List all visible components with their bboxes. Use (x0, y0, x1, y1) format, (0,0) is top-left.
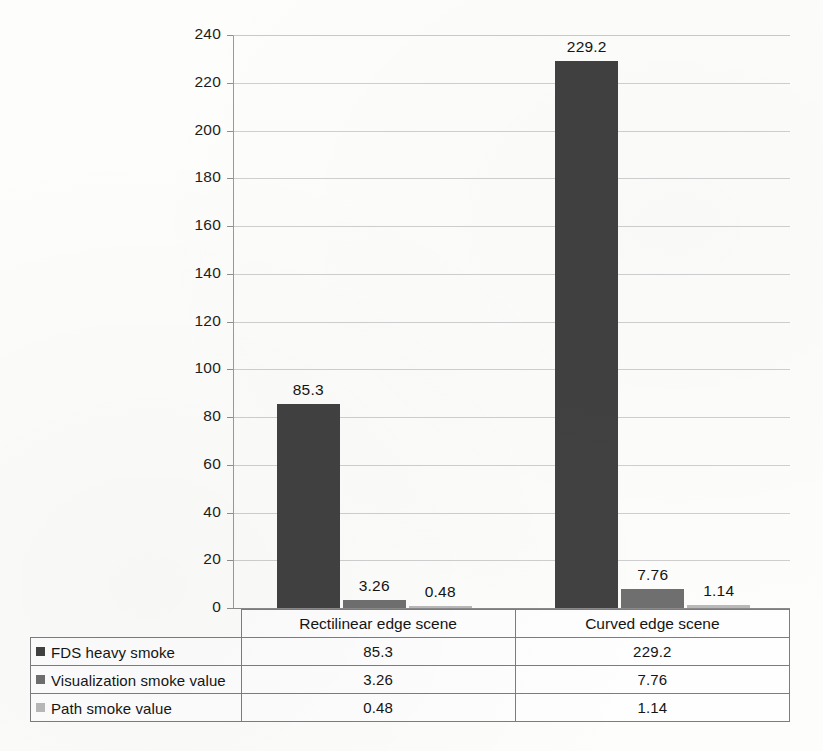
legend-label-2: Path smoke value (51, 700, 172, 717)
data-label-0-0: 85.3 (269, 381, 348, 399)
series-0-swatch-icon (36, 647, 45, 656)
table-row: Path smoke value0.481.14 (31, 694, 790, 722)
legend-cell-0: FDS heavy smoke (31, 638, 242, 666)
table-header-rectilinear-edge-scene: Rectilinear edge scene (241, 610, 515, 638)
y-axis-label-120: 120 (175, 312, 221, 330)
table-value-1-0: 3.26 (241, 666, 515, 694)
data-table: Rectilinear edge scene Curved edge scene… (30, 609, 790, 722)
chart-figure: 020406080100120140160180200220240 85.33.… (0, 0, 823, 751)
y-axis-label-220: 220 (175, 73, 221, 91)
bar-2-0[interactable] (409, 606, 472, 608)
bar-0-1[interactable] (555, 61, 618, 608)
y-axis-label-100: 100 (175, 359, 221, 377)
y-axis-label-160: 160 (175, 216, 221, 234)
y-axis-label-240: 240 (175, 25, 221, 43)
table-value-2-0: 0.48 (241, 694, 515, 722)
data-label-2-0: 0.48 (401, 583, 480, 601)
bar-0-0[interactable] (277, 404, 340, 608)
y-axis-label-60: 60 (175, 455, 221, 473)
series-2-swatch-icon (36, 703, 45, 712)
y-axis-label-20: 20 (175, 550, 221, 568)
table-header-curved-edge-scene: Curved edge scene (515, 610, 789, 638)
bar-1-0[interactable] (343, 600, 406, 608)
table-value-0-0: 85.3 (241, 638, 515, 666)
y-axis-label-180: 180 (175, 168, 221, 186)
data-label-2-1: 1.14 (679, 582, 758, 600)
table-value-1-1: 7.76 (515, 666, 789, 694)
bars-layer: 85.33.260.48229.27.761.14 (233, 35, 790, 608)
bar-2-1[interactable] (687, 605, 750, 608)
legend-label-1: Visualization smoke value (51, 672, 226, 689)
y-axis-label-80: 80 (175, 407, 221, 425)
data-label-0-1: 229.2 (547, 38, 626, 56)
table-value-2-1: 1.14 (515, 694, 789, 722)
table-row: Visualization smoke value3.267.76 (31, 666, 790, 694)
y-axis-label-140: 140 (175, 264, 221, 282)
table-header-row: Rectilinear edge scene Curved edge scene (31, 610, 790, 638)
y-axis-label-200: 200 (175, 121, 221, 139)
y-axis-label-40: 40 (175, 503, 221, 521)
series-1-swatch-icon (36, 675, 45, 684)
table-value-0-1: 229.2 (515, 638, 789, 666)
table-corner-cell (31, 610, 242, 638)
table-row: FDS heavy smoke85.3229.2 (31, 638, 790, 666)
bar-1-1[interactable] (621, 589, 684, 608)
legend-cell-2: Path smoke value (31, 694, 242, 722)
legend-label-0: FDS heavy smoke (51, 644, 175, 661)
legend-cell-1: Visualization smoke value (31, 666, 242, 694)
